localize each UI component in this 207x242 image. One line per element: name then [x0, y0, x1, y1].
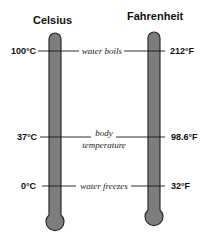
body-annotation: body	[84, 128, 124, 138]
fahrenheit-freeze-label: 32°F	[171, 181, 190, 191]
temperature-annotation: temperature	[76, 140, 132, 150]
celsius-boil-label: 100°C	[11, 46, 36, 56]
fahrenheit-title: Fahrenheit	[127, 10, 183, 22]
water-boils-annotation: water boils	[80, 46, 124, 56]
celsius-title: Celsius	[33, 14, 72, 26]
celsius-freeze-label: 0°C	[21, 181, 36, 191]
fahrenheit-thermometer-icon	[145, 32, 163, 226]
celsius-thermometer-icon	[46, 33, 64, 231]
fahrenheit-body-label: 98.6°F	[171, 132, 198, 142]
fahrenheit-boil-label: 212°F	[170, 46, 194, 56]
celsius-body-label: 37°C	[17, 132, 37, 142]
thermometers-graphic	[0, 0, 207, 242]
thermometer-comparison-diagram: Celsius Fahrenheit 100°C 37°C 0°C 212°F …	[0, 0, 207, 242]
water-freezes-annotation: water freezes	[77, 181, 131, 191]
